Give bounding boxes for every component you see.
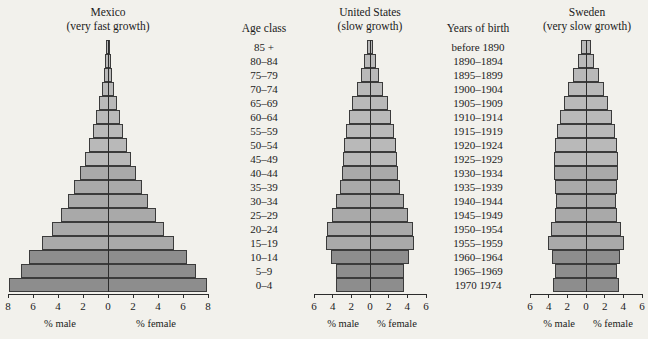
years-of-birth-label: before 1890 bbox=[428, 42, 528, 53]
bar-female bbox=[108, 68, 112, 82]
axis-tick bbox=[33, 294, 34, 298]
age-class-label: 30–34 bbox=[216, 196, 312, 207]
axis-tick-label: 4 bbox=[397, 300, 417, 312]
axis-tick-label: 4 bbox=[613, 300, 633, 312]
bar-male bbox=[555, 264, 586, 278]
panel-title-text: Sweden bbox=[569, 6, 605, 18]
x-axis-united-states: 6420246% male% female bbox=[314, 294, 426, 295]
axis-tick bbox=[370, 294, 371, 298]
axis-tick bbox=[604, 294, 605, 298]
bar-male bbox=[551, 222, 586, 236]
bar-male bbox=[336, 194, 370, 208]
years-of-birth-label: 1890–1894 bbox=[428, 56, 528, 67]
years-of-birth-label: 1965–1969 bbox=[428, 266, 528, 277]
bar-male bbox=[80, 166, 108, 180]
bar-female bbox=[108, 152, 131, 166]
bar-female bbox=[586, 236, 624, 250]
age-class-label: 65–69 bbox=[216, 98, 312, 109]
bar-female bbox=[108, 110, 120, 124]
bar-female bbox=[370, 250, 409, 264]
axis-tick-label: 6 bbox=[304, 300, 324, 312]
years-of-birth-label: 1895–1899 bbox=[428, 70, 528, 81]
bar-male bbox=[555, 138, 586, 152]
plot-area-mexico bbox=[8, 40, 208, 292]
bar-female bbox=[108, 264, 196, 278]
bar-male bbox=[52, 222, 108, 236]
years-of-birth-label: 1960–1964 bbox=[428, 252, 528, 263]
years-of-birth-label: 1970 1974 bbox=[428, 280, 528, 291]
bar-female bbox=[370, 110, 391, 124]
population-pyramid-figure: Mexico (very fast growth) 864202468% mal… bbox=[0, 0, 648, 339]
axis-caption-female: % female bbox=[568, 318, 648, 329]
bar-female bbox=[370, 166, 398, 180]
bar-female bbox=[370, 68, 379, 82]
years-of-birth-label: 1900–1904 bbox=[428, 84, 528, 95]
bar-female bbox=[586, 278, 619, 292]
bar-female bbox=[108, 166, 136, 180]
bar-male bbox=[9, 278, 108, 292]
bar-male bbox=[552, 250, 586, 264]
age-class-label: 40–44 bbox=[216, 168, 312, 179]
age-class-label: 55–59 bbox=[216, 126, 312, 137]
panel-united-states: United States (slow growth) 6420246% mal… bbox=[310, 0, 430, 339]
center-axis-line bbox=[586, 40, 587, 292]
bar-female bbox=[108, 124, 123, 138]
age-class-label: 20–24 bbox=[216, 224, 312, 235]
bar-female bbox=[586, 110, 612, 124]
bar-female bbox=[370, 194, 404, 208]
years-of-birth-label: 1940–1944 bbox=[428, 196, 528, 207]
plot-area-sweden bbox=[530, 40, 642, 292]
axis-tick-label: 2 bbox=[123, 300, 143, 312]
axis-tick-label: 6 bbox=[520, 300, 540, 312]
bar-male bbox=[349, 110, 370, 124]
bar-female bbox=[108, 96, 117, 110]
age-class-label: 70–74 bbox=[216, 84, 312, 95]
bar-female bbox=[586, 82, 604, 96]
axis-tick bbox=[8, 294, 9, 298]
bar-male bbox=[327, 222, 370, 236]
axis-tick-label: 6 bbox=[173, 300, 193, 312]
column-header-age-class: Age class bbox=[216, 22, 312, 34]
axis-tick bbox=[586, 294, 587, 298]
bar-male bbox=[331, 250, 370, 264]
bar-male bbox=[42, 236, 108, 250]
bar-male bbox=[93, 124, 108, 138]
bar-male bbox=[89, 138, 108, 152]
bar-male bbox=[555, 208, 586, 222]
axis-tick bbox=[208, 294, 209, 298]
axis-tick-label: 4 bbox=[539, 300, 559, 312]
panel-subtitle-text: (very fast growth) bbox=[0, 20, 216, 34]
panel-subtitle-text: (slow growth) bbox=[310, 20, 430, 34]
years-of-birth-label: 1945–1949 bbox=[428, 210, 528, 221]
bar-female bbox=[586, 96, 608, 110]
bar-female bbox=[370, 208, 408, 222]
bar-female bbox=[370, 180, 400, 194]
axis-tick-label: 6 bbox=[632, 300, 648, 312]
axis-tick bbox=[530, 294, 531, 298]
bar-male bbox=[357, 82, 370, 96]
years-of-birth-label: 1950–1954 bbox=[428, 224, 528, 235]
axis-tick-label: 4 bbox=[148, 300, 168, 312]
bar-female bbox=[586, 264, 617, 278]
axis-tick-label: 0 bbox=[98, 300, 118, 312]
panel-title-mexico: Mexico (very fast growth) bbox=[0, 6, 216, 33]
column-header-years-of-birth: Years of birth bbox=[428, 22, 528, 34]
bar-female bbox=[586, 138, 617, 152]
axis-tick bbox=[158, 294, 159, 298]
bar-male bbox=[553, 278, 586, 292]
bar-male bbox=[326, 236, 370, 250]
age-class-label: 45–49 bbox=[216, 154, 312, 165]
years-of-birth-label: 1925–1929 bbox=[428, 154, 528, 165]
bar-male bbox=[573, 68, 586, 82]
bar-male bbox=[556, 194, 586, 208]
bar-male bbox=[548, 236, 586, 250]
bar-female bbox=[586, 124, 615, 138]
bar-female bbox=[586, 40, 591, 54]
axis-tick bbox=[314, 294, 315, 298]
axis-tick bbox=[332, 294, 333, 298]
bar-female bbox=[586, 152, 618, 166]
panel-sweden: Sweden (very slow growth) 6420246% male%… bbox=[526, 0, 648, 339]
bar-female bbox=[108, 250, 187, 264]
age-class-label: 80–84 bbox=[216, 56, 312, 67]
bar-male bbox=[555, 180, 586, 194]
